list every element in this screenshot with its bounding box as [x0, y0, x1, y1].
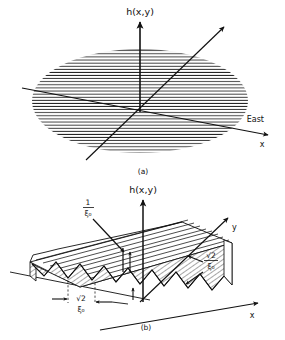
- period-annotation: √2 ξ₀: [52, 281, 128, 314]
- panel-b: y x h(x,y) 1 ξ₀ √2 ξ₀: [10, 184, 258, 332]
- panel-b-label: (b): [141, 323, 152, 332]
- slope-numerator: √2: [206, 251, 216, 260]
- period-denominator: ξ₀: [77, 305, 84, 314]
- panel-b-x-axis: [100, 303, 258, 330]
- slab-right-cap: [224, 240, 232, 285]
- period-tail-right: [112, 302, 128, 304]
- panel-b-h-label: h(x,y): [129, 184, 157, 195]
- ridge-height-numerator: 1: [86, 198, 91, 207]
- panel-b-x-label: x: [250, 311, 255, 320]
- panel-a-h-label: h(x,y): [126, 6, 154, 17]
- panel-b-y-label: y: [232, 223, 237, 232]
- ridge-height-denominator: ξ₀: [84, 209, 91, 218]
- panel-a-east-label: East: [247, 115, 264, 124]
- slope-denominator: ξ₀: [207, 262, 214, 271]
- panel-a-label: (a): [138, 167, 149, 176]
- corrugated-slab: [30, 220, 232, 290]
- period-numerator: √2: [76, 294, 86, 303]
- figure-svg: h(x,y) East x (a): [0, 0, 285, 340]
- panel-a-x-label: x: [260, 140, 265, 149]
- figure-root: h(x,y) East x (a): [0, 0, 285, 340]
- panel-a: h(x,y) East x (a): [22, 6, 268, 176]
